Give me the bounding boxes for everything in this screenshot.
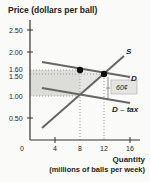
y-tick-label: 1.00 — [9, 93, 23, 100]
x-tick-label: 16 — [126, 145, 134, 152]
x-tick-label: 8 — [78, 145, 82, 152]
demand-label: D — [131, 74, 137, 83]
x-tick-label: 12 — [100, 145, 108, 152]
chart-container: Price (dollars per ball) 2.50 2.00 1.60 … — [0, 0, 150, 182]
y-tick-label: 1.60 — [9, 66, 23, 73]
x-axis-label: Quantity — [113, 155, 146, 164]
x-axis-sublabel: (millions of balls per week) — [49, 165, 145, 174]
point-price-with-tax — [77, 67, 83, 73]
x-tick-label: 0 — [20, 145, 24, 152]
tax-label: 60¢ — [116, 84, 128, 91]
x-tick-label: 4 — [53, 145, 57, 152]
supply-label: S — [126, 47, 132, 56]
point-equilibrium — [101, 71, 107, 77]
y-tick-label: 2.00 — [9, 49, 23, 56]
y-tick-label: 2.50 — [9, 27, 23, 34]
y-axis-label: Price (dollars per ball) — [8, 5, 97, 15]
y-tick-label: 0.50 — [9, 115, 23, 122]
y-tick-label: 1.50 — [9, 73, 23, 80]
demand-minus-tax-label: D – tax — [112, 105, 139, 114]
chart: Price (dollars per ball) 2.50 2.00 1.60 … — [0, 0, 150, 182]
